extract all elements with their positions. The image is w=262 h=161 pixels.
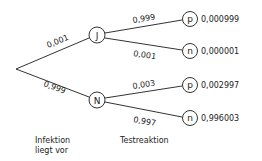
- node-N-p-label: p: [187, 80, 193, 90]
- prob-J-p: 0,999: [132, 13, 156, 25]
- result-J-n: 0,000001: [201, 47, 239, 56]
- result-J-p: 0,000999: [201, 15, 239, 24]
- result-N-p: 0,002997: [201, 81, 239, 90]
- caption-testreaktion: Testreaktion: [119, 136, 169, 145]
- tree-diagram: J N 0,001 0,999 p n p n 0,999 0,001 0,00…: [0, 0, 262, 161]
- result-N-n: 0,996003: [201, 114, 239, 123]
- node-J-n-label: n: [187, 46, 193, 56]
- branch-N-n: [105, 102, 182, 117]
- caption-infektion-2: liegt vor: [35, 146, 69, 155]
- node-N-n-label: n: [187, 113, 193, 123]
- prob-J-n: 0,001: [133, 49, 157, 61]
- prob-N: 0,999: [42, 79, 67, 95]
- node-N-label: N: [94, 96, 101, 106]
- prob-N-n: 0,997: [133, 115, 157, 128]
- node-J-label: J: [95, 31, 99, 41]
- caption-infektion-1: Infektion: [35, 136, 70, 145]
- prob-N-p: 0,003: [132, 79, 156, 91]
- branch-J-n: [105, 38, 182, 50]
- node-J-p-label: p: [187, 14, 193, 24]
